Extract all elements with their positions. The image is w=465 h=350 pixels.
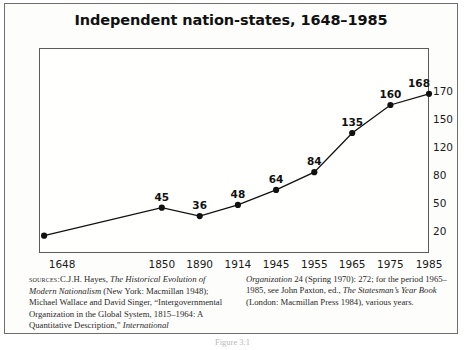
data-point xyxy=(197,213,203,219)
x-axis-tick-label: 1985 xyxy=(416,258,443,270)
y-axis-tick-label: 170 xyxy=(433,85,453,97)
x-axis-tick-label: 1945 xyxy=(263,258,290,270)
y-axis-tick-label: 120 xyxy=(433,141,453,153)
plot-area: 4536486484135160168 170150120805020 1648… xyxy=(39,48,429,253)
data-point-label: 168 xyxy=(408,77,430,89)
sources-left-part-3: International xyxy=(123,320,169,330)
data-point-label: 45 xyxy=(155,191,170,203)
data-point xyxy=(349,130,355,136)
x-axis-tick-label: 1648 xyxy=(49,258,76,270)
x-axis-tick-label: 1975 xyxy=(377,258,404,270)
figure-box: Independent nation-states, 1648–1985 453… xyxy=(4,3,458,334)
sources-left-part-0: C.J.H. Hayes, xyxy=(60,274,110,284)
sources-column-right: Organization 24 (Spring 1970): 272; for … xyxy=(246,274,449,332)
chart-title: Independent nation-states, 1648–1985 xyxy=(5,12,457,28)
data-point xyxy=(387,102,393,108)
sources-note: sources:C.J.H. Hayes, The Historical Evo… xyxy=(29,274,449,332)
sources-column-left: sources:C.J.H. Hayes, The Historical Evo… xyxy=(29,274,232,332)
data-point xyxy=(159,205,165,211)
data-point-label: 84 xyxy=(307,155,322,167)
x-axis-tick-label: 1914 xyxy=(225,258,252,270)
data-point-label: 135 xyxy=(341,116,363,128)
data-point xyxy=(41,233,47,239)
sources-right-part-3: (London: Macmillan Press 1984), various … xyxy=(246,297,414,307)
data-point-label: 64 xyxy=(269,173,284,185)
x-axis-tick-label: 1850 xyxy=(148,258,175,270)
y-axis-tick-label: 150 xyxy=(433,113,453,125)
x-axis-tick-label: 1890 xyxy=(186,258,213,270)
sources-label: sources: xyxy=(29,275,60,284)
x-axis-tick-label: 1955 xyxy=(301,258,328,270)
sources-right-part-2: The Statesman’s Year Book xyxy=(343,285,437,295)
sources-right-part-0: Organization xyxy=(246,274,292,284)
data-point xyxy=(235,202,241,208)
data-point-label: 48 xyxy=(231,188,246,200)
data-point-label: 160 xyxy=(379,88,401,100)
x-axis-tick-label: 1965 xyxy=(339,258,366,270)
figure-caption: Figure 3.1 xyxy=(0,337,465,347)
y-axis-tick-label: 20 xyxy=(433,225,446,237)
data-point-label: 36 xyxy=(192,199,207,211)
y-axis-tick-label: 80 xyxy=(433,169,446,181)
line-series xyxy=(39,48,429,253)
data-point xyxy=(273,187,279,193)
data-point xyxy=(426,91,432,97)
y-axis-tick-label: 50 xyxy=(433,197,446,209)
data-point xyxy=(311,169,317,175)
